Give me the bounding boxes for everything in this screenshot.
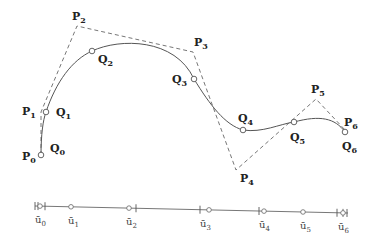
control-point-label: P0 [22,150,36,165]
parameter-label: ū2 [126,216,137,230]
data-point-label: Q4 [238,112,254,127]
data-point-labels: Q0Q1Q2Q3Q4Q5Q6 [50,53,358,157]
parameter-line: ū0ū1ū2ū3ū4ū5ū6 [35,202,349,235]
data-point-marker [43,109,49,115]
parameter-label: ū1 [68,215,79,229]
data-point-label: Q1 [56,106,71,121]
b-spline-diagram: P0P1P2P3P4P5P6 Q0Q1Q2Q3Q4Q5Q6 ū0ū1ū2ū3ū4… [0,0,371,243]
parameter-label: ū0 [35,214,46,228]
parameter-marker [127,206,132,211]
parameter-marker [341,211,346,216]
parameter-marker [301,210,306,215]
data-point-label: Q5 [290,131,305,146]
data-point-marker [38,152,44,158]
data-point-label: Q2 [98,53,113,68]
parameter-label: ū6 [338,221,349,235]
control-point-label: P6 [344,116,358,131]
parameter-label: ū3 [200,218,211,232]
parameter-label: ū5 [300,220,311,234]
data-point-marker [342,129,348,135]
control-point-label: P3 [194,36,208,51]
data-point-label: Q3 [172,73,188,88]
control-point-label: P4 [240,172,254,187]
control-point-label: P5 [311,83,325,98]
control-point-label: P1 [22,105,36,120]
parameter-marker [262,209,267,214]
data-point-label: Q6 [342,140,358,155]
data-point-marker [89,48,95,54]
data-point-label: Q0 [50,142,66,157]
parameter-marker [38,204,43,209]
data-point-marker [191,76,197,82]
control-point-label: P2 [72,10,86,25]
parameter-marker [69,205,74,210]
control-point-labels: P0P1P2P3P4P5P6 [22,10,358,187]
data-point-marker [240,127,246,133]
parameter-label: ū4 [259,219,270,233]
parameter-marker [207,208,212,213]
data-point-marker [291,119,297,125]
